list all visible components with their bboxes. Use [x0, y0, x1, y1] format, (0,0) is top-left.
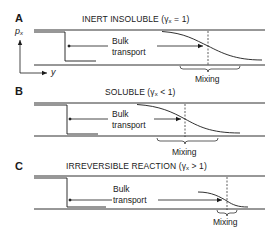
bulk-line-2: transport: [112, 120, 146, 131]
panel-letter-b: B: [15, 86, 23, 97]
panel-title-c: IRREVERSIBLE REACTION (γx > 1): [66, 162, 207, 171]
panel-title-text: INERT INSOLUBLE (: [82, 14, 164, 24]
panel-title-a: INERT INSOLUBLE (γx = 1): [82, 15, 189, 24]
panel-title-relation: = 1): [172, 14, 190, 24]
gas-transport-diagram: A INERT INSOLUBLE (γx = 1) px y Bulk tra…: [0, 0, 278, 239]
bulk-transport-label-b: Bulk transport: [112, 109, 146, 130]
panel-letter-a: A: [15, 13, 23, 24]
panel-title-text: IRREVERSIBLE REACTION (: [66, 161, 182, 171]
panel-title-b: SOLUBLE (γx < 1): [105, 88, 176, 97]
panel-title-relation: < 1): [158, 87, 176, 97]
mixing-label-b: Mixing: [172, 148, 197, 157]
bulk-transport-label-c: Bulk transport: [113, 184, 147, 205]
panel-c-graphics: [34, 176, 265, 216]
bulk-line-1: Bulk: [112, 109, 146, 120]
mixing-label-a: Mixing: [195, 75, 220, 84]
panel-title-text: SOLUBLE (: [105, 87, 150, 97]
bulk-line-1: Bulk: [113, 184, 147, 195]
y-axis-subscript: x: [20, 30, 23, 36]
bulk-transport-label-a: Bulk transport: [112, 36, 146, 57]
bulk-line-2: transport: [113, 195, 147, 206]
x-axis-label: y: [51, 68, 56, 77]
panel-b-graphics: [34, 103, 265, 144]
bulk-line-2: transport: [112, 47, 146, 58]
panel-letter-c: C: [15, 161, 23, 172]
bulk-line-1: Bulk: [112, 36, 146, 47]
mixing-label-c: Mixing: [213, 218, 238, 227]
panel-title-relation: > 1): [189, 161, 207, 171]
y-axis-label: px: [15, 27, 23, 36]
